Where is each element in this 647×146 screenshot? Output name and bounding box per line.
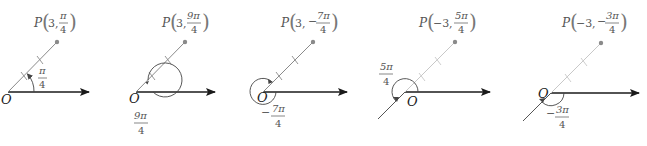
point-label: P ( 3 , π 4 ) (33, 10, 77, 35)
diagram-1: O P ( 3 , π 4 ) π 4 (1, 10, 89, 107)
svg-text:3: 3 (176, 17, 183, 30)
origin-label: O (129, 91, 140, 106)
svg-text:): ) (620, 10, 628, 34)
origin-label: O (407, 94, 418, 109)
svg-text:π: π (38, 65, 46, 76)
svg-text:,: , (302, 17, 306, 30)
svg-text:π: π (59, 10, 67, 21)
angle-label: − 7π 4 (261, 103, 285, 129)
svg-text:5π: 5π (455, 10, 468, 21)
point-p (599, 41, 603, 45)
diagram-5: O P ( −3 , − 3π 4 ) − 3π 4 (523, 10, 639, 130)
diagram-3: O P ( 3 , − 7π 4 ) − 7π 4 (250, 10, 347, 129)
svg-text:4: 4 (609, 24, 615, 35)
svg-text:9π: 9π (187, 10, 200, 21)
point-label: P ( −3 , − 3π 4 ) (561, 10, 628, 35)
origin-label: O (538, 86, 549, 101)
svg-text:4: 4 (458, 24, 464, 35)
svg-text:4: 4 (138, 125, 144, 136)
angle-arc (28, 74, 35, 92)
diagram-4: O P ( −3 , 5π 4 ) 5π 4 (378, 10, 490, 119)
angle-label: 5π 4 (379, 61, 393, 87)
svg-text:−3: −3 (433, 17, 449, 30)
ray-op (405, 42, 455, 92)
svg-text:−3: −3 (576, 17, 592, 30)
svg-text:): ) (331, 10, 339, 34)
svg-text:4: 4 (559, 119, 565, 130)
svg-text:3π: 3π (556, 104, 569, 115)
point-p (55, 40, 59, 44)
point-label: P ( 3 , 9π 4 ) (161, 10, 210, 35)
svg-text:5π: 5π (380, 61, 393, 72)
ray-op (263, 42, 313, 92)
svg-text:): ) (202, 10, 210, 34)
svg-text:,: , (449, 17, 453, 30)
point-label: P ( −3 , 5π 4 ) (418, 10, 477, 35)
svg-text:4: 4 (191, 24, 197, 35)
polar-coordinates-figure: O P ( 3 , π 4 ) π 4 O P ( (0, 0, 647, 146)
svg-text:3: 3 (48, 17, 55, 30)
svg-text:,: , (592, 17, 596, 30)
svg-text:4: 4 (60, 24, 66, 35)
angle-label: 9π 4 (134, 110, 148, 136)
svg-text:−: − (308, 15, 317, 28)
svg-text:4: 4 (39, 79, 45, 90)
point-p (311, 40, 315, 44)
origin-label: O (257, 90, 268, 105)
svg-text:4: 4 (383, 76, 389, 87)
terminal-ray (378, 92, 405, 119)
svg-text:−: − (261, 106, 270, 119)
svg-text:4: 4 (275, 118, 281, 129)
svg-text:9π: 9π (134, 110, 147, 121)
svg-text:3: 3 (295, 17, 302, 30)
svg-text:7π: 7π (272, 103, 285, 114)
point-p (183, 40, 187, 44)
svg-text:): ) (69, 10, 77, 34)
angle-label: − 3π 4 (546, 104, 569, 130)
svg-text:4: 4 (320, 24, 326, 35)
svg-text:7π: 7π (317, 10, 330, 21)
svg-text:−: − (546, 107, 555, 120)
ray-op (136, 42, 185, 92)
svg-text:,: , (183, 17, 187, 30)
diagram-2: O P ( 3 , 9π 4 ) 9π 4 (119, 10, 215, 136)
ray-op (551, 43, 601, 93)
point-p (453, 40, 457, 44)
origin-label: O (1, 92, 12, 107)
svg-text:,: , (55, 17, 59, 30)
point-label: P ( 3 , − 7π 4 ) (280, 10, 339, 35)
ray-op (8, 42, 57, 92)
svg-text:3π: 3π (606, 10, 619, 21)
svg-text:): ) (469, 10, 477, 34)
angle-label: π 4 (38, 65, 47, 90)
svg-text:−: − (597, 15, 606, 28)
